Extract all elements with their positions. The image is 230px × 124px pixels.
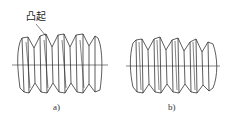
caption-a: a) [53,103,60,112]
protrusion-annotation: 凸起 [26,12,46,22]
thread-figure-a [18,34,102,93]
caption-b: b) [168,103,176,112]
annotation-leader-line [36,24,46,36]
thread-figure-b [130,37,216,93]
